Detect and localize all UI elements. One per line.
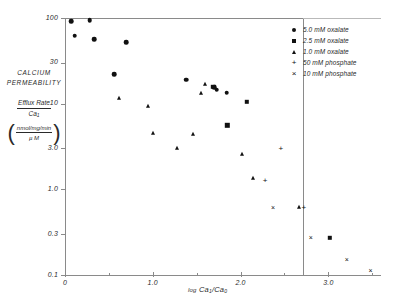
- legend-marker-glyph: [292, 39, 296, 43]
- y-axis-tick: [61, 18, 66, 19]
- y-axis-units-numerator: nmol/mg/min: [16, 124, 52, 133]
- plot-top-border-extension: [303, 18, 381, 19]
- y-axis-tick-label: 0.1: [0, 271, 58, 278]
- legend-item: ×10 mM phosphate: [290, 68, 357, 79]
- data-point: [191, 132, 195, 136]
- legend-item: 2.5 mM oxalate: [290, 35, 357, 46]
- legend-marker-plus-icon: +: [290, 59, 298, 67]
- legend-item-label: 1.0 mM oxalate: [303, 48, 349, 55]
- plot-frame: [65, 18, 303, 275]
- y-axis-fraction-denominator: Ca1: [6, 110, 62, 119]
- data-point: [300, 203, 307, 210]
- data-point: [240, 152, 244, 156]
- legend-item: 5.0 mM oxalate: [290, 24, 357, 35]
- data-point: [151, 131, 155, 135]
- legend-marker-glyph: [292, 28, 296, 32]
- data-point: [328, 236, 332, 240]
- data-point: [262, 176, 269, 183]
- legend-marker-glyph: ×: [290, 70, 298, 78]
- y-axis-fraction-numerator: Efflux Rate: [17, 99, 51, 108]
- y-axis-units: ( nmol/mg/min µ M ): [6, 124, 62, 142]
- data-point: [69, 19, 74, 24]
- data-point: [224, 90, 229, 95]
- y-axis-title: CALCIUM PERMEABILITY Efflux Rate Ca1 ( n…: [6, 68, 62, 142]
- legend-item: 1.0 mM oxalate: [290, 46, 357, 57]
- x-axis-tick: [65, 272, 66, 277]
- x-axis-title-sub2: 0: [224, 288, 227, 294]
- legend-marker-triangle-icon: [290, 48, 298, 56]
- x-axis-tick-label: 3.0: [323, 279, 333, 286]
- data-point: [270, 203, 277, 210]
- data-point: [367, 266, 374, 273]
- y-axis-ca-label: Ca: [28, 110, 36, 117]
- y-axis-fraction: Efflux Rate Ca1: [6, 99, 62, 118]
- legend-marker-square-icon: [290, 37, 298, 45]
- x-axis-title-main: Ca: [199, 285, 209, 294]
- y-axis-caption-line1: CALCIUM: [6, 68, 62, 78]
- data-point: [211, 84, 215, 88]
- y-axis-tick-label: 1.0: [0, 185, 58, 192]
- legend-item-label: 10 mM phosphate: [303, 70, 357, 77]
- legend-item-label: 50 mM phosphate: [303, 59, 357, 66]
- x-axis-tick: [153, 272, 154, 277]
- legend-item: +50 mM phosphate: [290, 57, 357, 68]
- x-axis-title-prefix: log: [188, 287, 197, 293]
- data-point: [87, 18, 92, 23]
- y-axis-caption-line2: PERMEABILITY: [6, 78, 62, 88]
- legend-item-label: 2.5 mM oxalate: [303, 37, 349, 44]
- data-point: [225, 123, 229, 127]
- x-axis-minor-tick: [284, 273, 285, 276]
- y-axis-units-denominator: µ M: [16, 134, 52, 142]
- x-axis-tick-label: 1.0: [148, 279, 158, 286]
- y-axis-caption: CALCIUM PERMEABILITY: [6, 68, 62, 88]
- data-point: [175, 146, 179, 150]
- data-point: [203, 82, 207, 86]
- x-axis-line: [65, 275, 381, 276]
- legend-marker-circle-icon: [290, 26, 298, 34]
- legend-marker-cross-icon: ×: [290, 70, 298, 78]
- data-point: [146, 104, 150, 108]
- data-point: [277, 144, 284, 151]
- chart-legend: 5.0 mM oxalate2.5 mM oxalate1.0 mM oxala…: [290, 24, 357, 79]
- data-point: [307, 233, 314, 240]
- legend-item-label: 5.0 mM oxalate: [303, 26, 349, 33]
- legend-marker-glyph: [292, 50, 296, 54]
- y-axis-tick-label: 3.0: [0, 144, 58, 151]
- y-axis-units-fraction: nmol/mg/min µ M: [16, 124, 52, 142]
- data-point: [199, 90, 203, 94]
- x-axis-minor-tick: [372, 273, 373, 276]
- data-point: [343, 255, 350, 262]
- y-axis-tick: [61, 234, 66, 235]
- data-point: [112, 72, 117, 77]
- data-point: [244, 100, 248, 104]
- data-point: [251, 176, 255, 180]
- y-axis-tick: [61, 63, 66, 64]
- x-axis-minor-tick: [197, 273, 198, 276]
- y-axis-tick-label: 100: [0, 14, 58, 21]
- y-axis-ca-subscript: 1: [37, 112, 40, 118]
- x-axis-tick-label: 0: [63, 279, 67, 286]
- data-point: [92, 37, 97, 42]
- x-axis-title: log Ca1/Ca0: [188, 285, 227, 294]
- data-point: [184, 77, 189, 82]
- x-axis-tick: [328, 272, 329, 277]
- y-axis-tick: [61, 189, 66, 190]
- legend-marker-glyph: +: [290, 59, 298, 67]
- x-axis-minor-tick: [109, 273, 110, 276]
- paren-open-glyph: (: [8, 124, 15, 142]
- x-axis-tick-label: 2.0: [235, 279, 245, 286]
- x-axis-title-slash: /Ca: [212, 285, 224, 294]
- scatter-chart-figure: 10030103.01.00.30.101.02.03.0 CALCIUM PE…: [0, 0, 403, 307]
- y-axis-tick-label: 30: [0, 58, 58, 65]
- y-axis-tick: [61, 148, 66, 149]
- y-axis-tick-label: 0.3: [0, 230, 58, 237]
- data-point: [124, 40, 129, 45]
- paren-close-glyph: ): [53, 124, 60, 142]
- data-point: [117, 96, 121, 100]
- data-point: [72, 33, 77, 38]
- x-axis-tick: [241, 272, 242, 277]
